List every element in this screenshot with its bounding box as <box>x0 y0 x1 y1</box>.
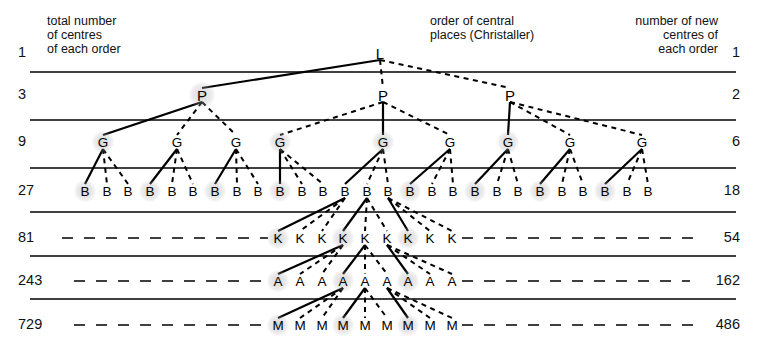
tree-link-dashed <box>432 149 450 184</box>
total-centres-a: 243 <box>18 272 42 288</box>
tree-link-dashed <box>365 245 387 274</box>
node-l-0: L <box>376 45 384 62</box>
tree-link-dashed <box>388 198 430 231</box>
tree-link-dashed <box>280 102 383 135</box>
tree-link-dashed <box>387 288 430 318</box>
node-k-4: K <box>360 231 369 246</box>
total-centres-b: 27 <box>18 182 34 198</box>
tree-link-solid <box>475 149 508 184</box>
node-b-0: B <box>80 184 89 199</box>
node-b-1: B <box>102 184 111 199</box>
new-centres-l: 1 <box>700 44 740 60</box>
node-k-5: K <box>382 231 391 246</box>
tree-link-dashed <box>300 245 343 274</box>
tree-link-solid <box>345 149 383 184</box>
node-a-6: A <box>403 274 412 289</box>
node-a-2: A <box>317 274 326 289</box>
christaller-hierarchy-diagram: total numberof centresof each order orde… <box>0 0 762 362</box>
tree-link-dashed <box>383 102 450 135</box>
tree-link-solid <box>85 149 103 184</box>
node-b-4: B <box>167 184 176 199</box>
node-g-5: G <box>445 135 456 150</box>
total-centres-m: 729 <box>18 316 42 332</box>
node-g-7: G <box>565 135 576 150</box>
node-b-21: B <box>535 184 544 199</box>
node-a-4: A <box>360 274 369 289</box>
tree-link-dashed <box>280 149 323 184</box>
node-a-3: A <box>338 274 347 289</box>
node-m-1: M <box>294 318 305 333</box>
node-a-5: A <box>382 274 391 289</box>
node-g-0: G <box>98 135 109 150</box>
node-b-14: B <box>383 184 392 199</box>
node-m-7: M <box>424 318 435 333</box>
node-a-8: A <box>447 274 456 289</box>
tree-link-solid <box>343 245 365 274</box>
node-a-0: A <box>273 274 282 289</box>
node-k-7: K <box>425 231 434 246</box>
node-b-23: B <box>578 184 587 199</box>
node-k-6: K <box>403 231 412 246</box>
node-b-11: B <box>318 184 327 199</box>
new-centres-p: 2 <box>700 86 740 102</box>
node-k-1: K <box>295 231 304 246</box>
node-m-4: M <box>359 318 370 333</box>
tree-link-solid <box>410 149 450 184</box>
tree-link-dashed <box>236 149 237 184</box>
node-a-7: A <box>425 274 434 289</box>
node-g-1: G <box>172 135 183 150</box>
tree-link-dashed <box>280 149 302 184</box>
new-centres-k: 54 <box>700 229 740 245</box>
tree-link-dashed <box>103 149 107 184</box>
tree-link-dashed <box>365 198 367 231</box>
node-g-8: G <box>637 135 648 150</box>
tree-link-solid <box>103 102 202 135</box>
tree-link-dashed <box>387 245 430 274</box>
node-p-2: P <box>505 87 515 104</box>
tree-link-solid <box>215 149 236 184</box>
node-b-12: B <box>340 184 349 199</box>
tree-link-solid <box>202 60 380 88</box>
node-b-6: B <box>210 184 219 199</box>
node-a-1: A <box>295 274 304 289</box>
node-b-8: B <box>253 184 262 199</box>
node-k-3: K <box>338 231 347 246</box>
node-b-22: B <box>557 184 566 199</box>
tree-link-solid <box>343 198 367 231</box>
new-centres-m: 486 <box>700 316 740 332</box>
node-b-18: B <box>470 184 479 199</box>
node-m-5: M <box>381 318 392 333</box>
tree-link-dashed <box>365 288 387 318</box>
tree-link-dashed <box>202 102 236 135</box>
total-centres-g: 9 <box>18 133 26 149</box>
tree-link-dashed <box>642 149 648 184</box>
node-b-16: B <box>427 184 436 199</box>
node-b-24: B <box>600 184 609 199</box>
tree-link-dashed <box>510 102 570 135</box>
node-b-19: B <box>492 184 501 199</box>
new-centres-g: 6 <box>700 133 740 149</box>
tree-link-dashed <box>450 149 453 184</box>
node-m-6: M <box>402 318 413 333</box>
new-centres-a: 162 <box>700 272 740 288</box>
node-m-0: M <box>272 318 283 333</box>
node-b-3: B <box>145 184 154 199</box>
tree-link-solid <box>508 102 510 135</box>
tree-link-dashed <box>627 149 642 184</box>
tree-link-solid <box>343 288 365 318</box>
node-b-9: B <box>275 184 284 199</box>
total-centres-l: 1 <box>18 44 26 60</box>
node-b-26: B <box>643 184 652 199</box>
node-b-5: B <box>188 184 197 199</box>
tree-link-dashed <box>177 149 193 184</box>
tree-link-solid <box>540 149 570 184</box>
tree-link-dashed <box>510 102 642 135</box>
new-centres-b: 18 <box>700 182 740 198</box>
total-centres-k: 81 <box>18 229 34 245</box>
total-centres-p: 3 <box>18 86 26 102</box>
node-b-2: B <box>123 184 132 199</box>
node-b-15: B <box>405 184 414 199</box>
node-p-0: P <box>197 87 207 104</box>
node-g-3: G <box>275 135 286 150</box>
node-m-8: M <box>446 318 457 333</box>
